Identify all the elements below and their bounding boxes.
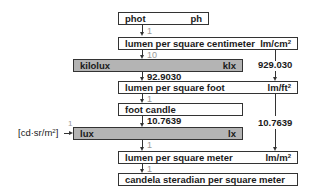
unit-symbol: lx bbox=[228, 128, 236, 139]
conversion-factor: 1 bbox=[68, 119, 72, 129]
conversion-factor: 929.030 bbox=[258, 60, 292, 70]
bracket-base: cd·sr/m bbox=[21, 127, 53, 138]
arrow-down-icon bbox=[140, 32, 144, 36]
unit-box-lux: lux lx bbox=[73, 127, 243, 140]
unit-name: kilolux bbox=[80, 60, 110, 71]
unit-symbol: klx bbox=[223, 60, 236, 71]
symbol-base: lm/m bbox=[265, 152, 287, 163]
unit-name: phot bbox=[125, 13, 146, 24]
arrow-line bbox=[275, 129, 276, 148]
unit-conversion-diagram: phot ph 1 lumen per square centimeter lm… bbox=[0, 0, 316, 193]
unit-symbol: lm/ft2 bbox=[268, 82, 291, 95]
symbol-exponent: 2 bbox=[288, 83, 291, 89]
symbol-exponent: 2 bbox=[288, 153, 291, 159]
bracket-exponent: 2 bbox=[52, 128, 55, 134]
unit-name: lumen per square meter bbox=[125, 152, 233, 163]
unit-name: lumen per square centimeter bbox=[125, 38, 255, 49]
unit-box-lumen-per-square-meter: lumen per square meter lm/m2 bbox=[118, 151, 298, 164]
unit-symbol: lm/m2 bbox=[265, 152, 291, 165]
unit-box-phot: phot ph bbox=[118, 12, 209, 25]
conversion-factor: 1 bbox=[147, 140, 152, 150]
symbol-base: lm/ft bbox=[268, 82, 288, 93]
base-units-label: [cd·sr/m2] bbox=[18, 127, 58, 140]
unit-box-lumen-per-square-foot: lumen per square foot lm/ft2 bbox=[118, 81, 298, 94]
unit-box-candela-steradian-per-square-meter: candela steradian per square meter bbox=[118, 173, 298, 186]
symbol-base: lm/cm bbox=[260, 38, 287, 49]
conversion-factor: 1 bbox=[147, 26, 152, 36]
unit-name: candela steradian per square meter bbox=[125, 174, 285, 185]
unit-symbol: ph bbox=[190, 13, 202, 24]
unit-name: lux bbox=[80, 128, 94, 139]
unit-name: foot candle bbox=[125, 104, 176, 115]
arrow-line bbox=[275, 94, 276, 116]
unit-name: lumen per square foot bbox=[125, 82, 225, 93]
unit-box-lumen-per-square-centimeter: lumen per square centimeter lm/cm2 bbox=[118, 37, 298, 50]
conversion-factor: 10.7639 bbox=[258, 118, 292, 128]
symbol-exponent: 2 bbox=[288, 39, 291, 45]
conversion-factor: 10.7639 bbox=[147, 116, 181, 126]
